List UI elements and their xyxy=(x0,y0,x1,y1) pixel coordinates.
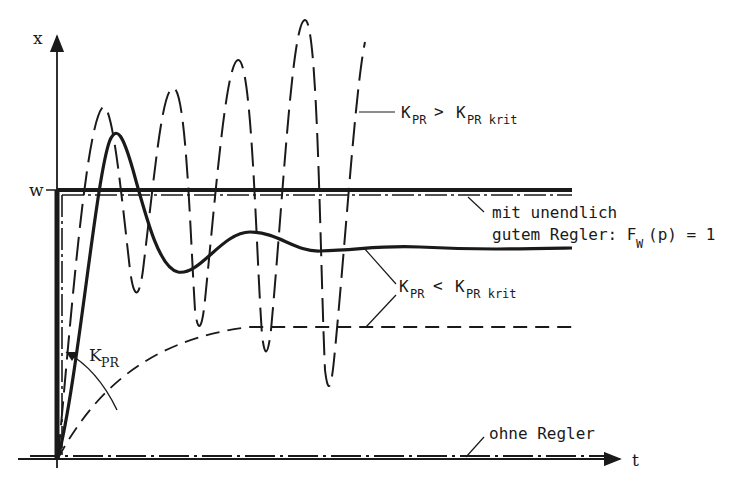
unstable-oscillation-curve xyxy=(58,20,365,458)
svg-text:>: > xyxy=(434,102,444,121)
svg-text:PR: PR xyxy=(412,113,427,127)
svg-text:PR krit: PR krit xyxy=(467,113,518,127)
stable-label: K PR < K PR krit xyxy=(364,248,517,327)
setpoint-label: w xyxy=(29,180,44,200)
svg-text:PR: PR xyxy=(410,287,425,301)
svg-text:mit unendlich: mit unendlich xyxy=(492,203,617,222)
svg-text:PR: PR xyxy=(101,355,119,370)
svg-text:K: K xyxy=(455,277,465,296)
svg-text:W: W xyxy=(636,237,644,251)
svg-text:<: < xyxy=(433,276,443,295)
no-controller-label: ohne Regler xyxy=(466,424,595,457)
unstable-label: K PR > K PR krit xyxy=(359,102,518,127)
diagram-canvas: x t w K PR K PR > K PR krit mit un xyxy=(0,0,744,487)
svg-text:(p) = 1: (p) = 1 xyxy=(648,225,715,244)
svg-text:K: K xyxy=(456,103,466,122)
svg-text:K: K xyxy=(399,277,409,296)
svg-text:PR krit: PR krit xyxy=(466,287,517,301)
y-axis-label: x xyxy=(33,28,43,48)
svg-text:K: K xyxy=(401,103,411,122)
x-axis-label: t xyxy=(632,450,639,470)
ideal-controller-label: mit unendlich gutem Regler: F W (p) = 1 xyxy=(468,197,715,251)
control-response-diagram: x t w K PR K PR > K PR krit mit un xyxy=(0,0,744,487)
svg-text:gutem Regler: F: gutem Regler: F xyxy=(492,225,637,244)
svg-text:ohne Regler: ohne Regler xyxy=(489,424,595,443)
